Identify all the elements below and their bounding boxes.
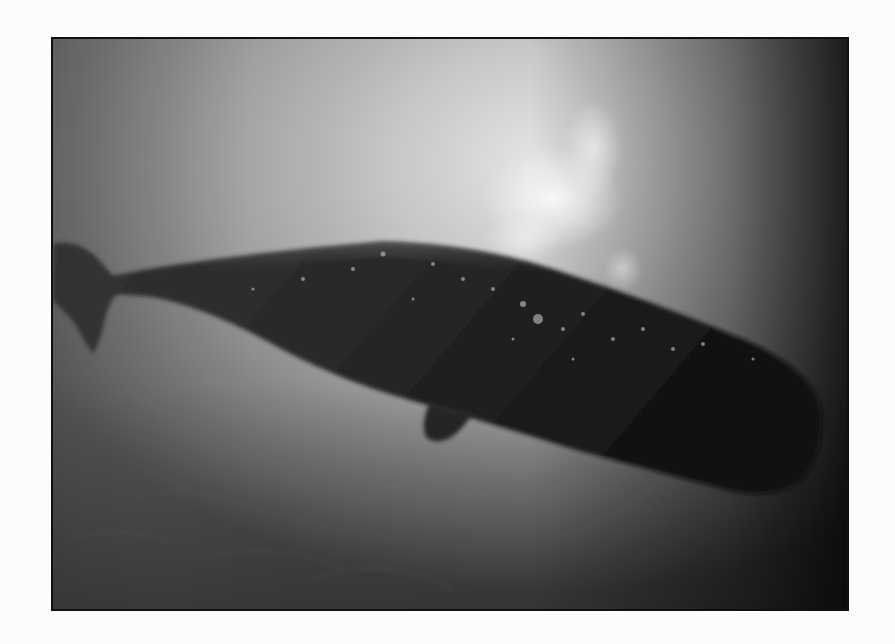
whale-photo — [51, 37, 849, 611]
page: Underwater photograph of a sperm whale s… — [0, 0, 895, 644]
whale-photo-canvas — [53, 39, 847, 609]
